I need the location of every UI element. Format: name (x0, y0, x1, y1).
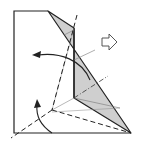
origami-diagram (0, 0, 145, 148)
turn-over-arrow (102, 34, 117, 50)
